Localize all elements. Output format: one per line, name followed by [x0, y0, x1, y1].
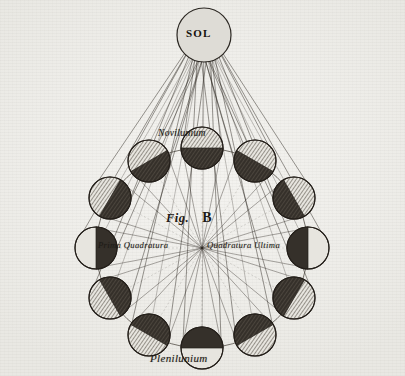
moon-novilunium [181, 127, 223, 169]
lunar-phase-diagram [0, 0, 405, 376]
moon-moon-3 [273, 177, 315, 219]
moon-moon-11 [89, 177, 131, 219]
moon-quadratura-ultima [287, 227, 329, 269]
moon-moon-12 [128, 140, 170, 182]
moon-moon-5 [273, 277, 315, 319]
moon-plenilunium [181, 327, 223, 369]
moon-moon-6 [234, 314, 276, 356]
engraving-plate: Novilunium Plenilunium Prima Quadratura … [0, 0, 405, 376]
moon-moon-9 [89, 277, 131, 319]
sun-body [177, 8, 231, 62]
moon-prima-quadratura [75, 227, 117, 269]
moon-moon-2 [234, 140, 276, 182]
moon-moon-8 [128, 314, 170, 356]
